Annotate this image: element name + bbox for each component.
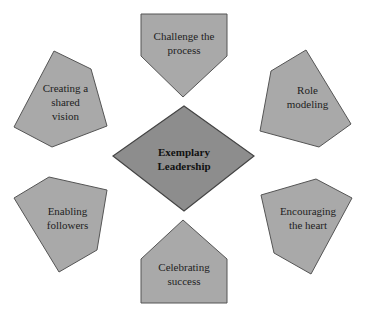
center-label: Exemplary Leadership — [134, 145, 234, 173]
node-vision-line1: Creating a — [28, 81, 103, 95]
node-vision-line3: vision — [28, 109, 103, 123]
center-line2: Leadership — [134, 159, 234, 173]
node-celebrate-label: Celebrating success — [141, 260, 227, 288]
node-challenge-label: Challenge the process — [141, 29, 227, 57]
node-encourage-line2: the heart — [268, 218, 348, 232]
node-encourage-line1: Encouraging — [268, 204, 348, 218]
node-role-line1: Role — [270, 83, 345, 97]
node-challenge-line2: process — [141, 43, 227, 57]
node-encourage-label: Encouraging the heart — [268, 204, 348, 232]
node-challenge-line1: Challenge the — [141, 29, 227, 43]
node-vision-label: Creating a shared vision — [28, 81, 103, 123]
node-role-line2: modeling — [270, 97, 345, 111]
node-enable-label: Enabling followers — [30, 204, 105, 232]
center-line1: Exemplary — [134, 145, 234, 159]
node-enable-line1: Enabling — [30, 204, 105, 218]
node-celebrate-line1: Celebrating — [141, 260, 227, 274]
node-celebrate-line2: success — [141, 274, 227, 288]
node-role-label: Role modeling — [270, 83, 345, 111]
node-vision-line2: shared — [28, 95, 103, 109]
node-enable-line2: followers — [30, 218, 105, 232]
